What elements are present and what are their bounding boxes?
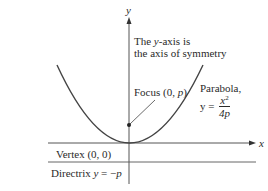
parabola-eq-lhs: y = [200,100,214,112]
vertex-label: Vertex (0, 0) [56,148,111,160]
y-axis-arrow-icon [127,17,132,24]
focus-text-a: Focus (0, [134,86,178,98]
y-axis-label: y [126,4,131,16]
numerator-exponent: 2 [225,94,229,102]
parabola-eq-fraction: x2 4p [219,92,230,119]
parabola-curve [57,65,203,143]
parabola-diagram: y x The y-axis is the axis of symmetry F… [0,0,268,191]
symmetry-annotation-line1: The y-axis is [134,35,190,47]
directrix-text-var2: p [116,167,122,179]
fraction-denominator: 4p [219,107,230,119]
symmetry-annotation-line2: the axis of symmetry [134,47,227,59]
focus-leader-line [130,100,155,124]
directrix-text-b: = − [98,167,116,179]
directrix-label: Directrix y = −p [51,167,122,179]
x-axis-label: x [259,137,264,149]
focus-point [127,123,131,127]
symmetry-text-b: -axis is [159,35,190,47]
fraction-numerator: x2 [219,92,230,107]
focus-label: Focus (0, p) [134,86,187,98]
focus-text-b: ) [183,86,187,98]
x-axis-arrow-icon [249,141,256,146]
directrix-text-a: Directrix [51,167,93,179]
symmetry-text-a: The [134,35,154,47]
